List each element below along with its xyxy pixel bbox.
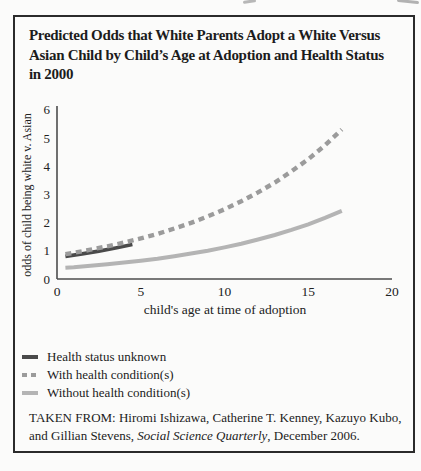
x-tick-label: 0: [54, 284, 61, 299]
y-tick-label: 3: [44, 187, 51, 202]
chart-area: 051015200123456 child's age at time of a…: [15, 100, 413, 330]
figure-title: Predicted Odds that White Parents Adopt …: [29, 26, 407, 85]
y-tick-label: 1: [44, 243, 51, 258]
x-tick-label: 5: [137, 284, 144, 299]
y-tick-label: 5: [44, 131, 51, 146]
y-axis-label: odds of child being white v. Asian: [20, 113, 34, 277]
legend-item-health-status-unknown: Health status unknown: [22, 348, 190, 366]
y-tick-label: 2: [44, 215, 51, 230]
tick-group: 051015200123456: [44, 102, 400, 299]
x-axis-label: child's age at time of adoption: [144, 302, 307, 317]
solid-dark-line-swatch-icon: [22, 355, 38, 360]
journal-name: Social Science Quarterly: [137, 428, 267, 443]
source-line1: TAKEN FROM: Hiromi Ishizawa, Catherine T…: [29, 409, 407, 427]
figure-frame: Predicted Odds that White Parents Adopt …: [13, 15, 415, 453]
legend-label: Health status unknown: [47, 349, 166, 365]
x-tick-label: 15: [302, 284, 316, 299]
figure-title-line3: in 2000: [29, 65, 407, 85]
dashed-gray-line-swatch-icon: [22, 373, 38, 378]
solid-light-line-swatch-icon: [22, 391, 38, 396]
figure-title-line2: Asian Child by Child’s Age at Adoption a…: [29, 46, 407, 66]
legend-item-without-health-conditions: Without health condition(s): [22, 384, 190, 402]
figure-title-line1: Predicted Odds that White Parents Adopt …: [29, 26, 407, 46]
legend-label: Without health condition(s): [47, 385, 190, 401]
chart-svg: 051015200123456 child's age at time of a…: [15, 100, 413, 330]
source-line2: and Gillian Stevens, Social Science Quar…: [29, 427, 407, 445]
x-tick-label: 10: [218, 284, 232, 299]
y-tick-label: 4: [44, 159, 51, 174]
legend-label: With health condition(s): [47, 367, 174, 383]
legend-item-with-health-conditions: With health condition(s): [22, 366, 190, 384]
y-tick-label: 0: [44, 272, 51, 287]
x-tick-label: 20: [385, 284, 399, 299]
source-attribution: TAKEN FROM: Hiromi Ishizawa, Catherine T…: [29, 409, 407, 445]
page-crop-artifact: [243, 0, 256, 4]
chart-legend: Health status unknown With health condit…: [22, 348, 190, 402]
series-group: [65, 130, 341, 268]
series-line-1: [65, 130, 341, 255]
y-tick-label: 6: [44, 102, 51, 117]
page-crop-artifact: [397, 0, 419, 4]
